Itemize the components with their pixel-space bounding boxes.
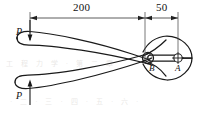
dimension-lines: [30, 12, 178, 60]
pliers-diagram: [0, 0, 206, 115]
dimension-label-50: 50: [156, 2, 167, 13]
point-label-B: B: [149, 64, 155, 73]
force-arrowheads: [28, 35, 33, 87]
lower-handle: [15, 53, 152, 89]
pivot-pin-B: [142, 52, 153, 63]
force-label-P-top: P: [16, 27, 22, 37]
point-label-A: A: [175, 64, 181, 73]
upper-handle: [17, 31, 152, 65]
force-label-P-bottom: P: [16, 91, 22, 101]
dimension-label-200: 200: [73, 2, 90, 13]
